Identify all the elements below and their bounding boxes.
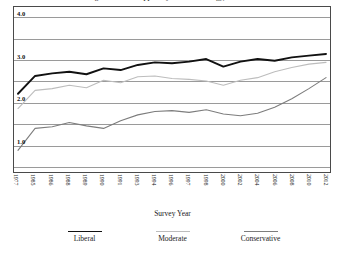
x-axis-tick-label: 1993 (134, 174, 140, 185)
x-axis-tick-label: 1988 (65, 174, 71, 185)
legend-item: Liberal (54, 231, 116, 243)
x-axis-tick-label: 1996 (168, 174, 174, 185)
x-axis-tick-label: 2002 (237, 174, 243, 185)
plot-area (13, 6, 331, 173)
x-axis-tick-label: 1994 (151, 174, 157, 185)
legend-swatch (68, 231, 102, 232)
x-axis-tick-label: 1989 (82, 174, 88, 185)
x-axis-title: Survey Year (0, 209, 345, 218)
x-axis-tick-label: 1991 (117, 174, 123, 185)
x-axis-tick-label: 1998 (203, 174, 209, 185)
series-line-moderate (18, 62, 326, 108)
x-axis-tick-label: 2000 (220, 174, 226, 185)
x-axis-tick-label: 2004 (254, 174, 260, 185)
x-axis-tick-label: 2006 (272, 174, 278, 185)
y-axis-tick-label: 3.0 (17, 53, 25, 60)
x-axis-tick-label: 1997 (185, 174, 191, 185)
x-axis-tick-label: 2008 (289, 174, 295, 185)
chart-title-clipped: Figure 1. Mean Support by Political Ideo… (0, 0, 345, 2)
legend-item: Moderate (142, 231, 204, 243)
x-axis-tick-label: 2010 (306, 174, 312, 185)
legend-item: Conservative (230, 231, 292, 243)
series-line-conservative (18, 78, 326, 151)
series-lines (14, 7, 330, 172)
legend-label: Conservative (241, 234, 281, 243)
x-axis-tick-label: 1990 (99, 174, 105, 185)
legend-swatch (244, 231, 278, 232)
x-axis-tick-label: 1985 (30, 174, 36, 185)
series-line-liberal (18, 54, 326, 94)
y-axis-tick-label: 1.0 (17, 138, 25, 145)
chart-figure: Figure 1. Mean Support by Political Ideo… (0, 0, 345, 257)
y-axis-tick-label: 4.0 (17, 10, 25, 17)
x-axis-tick-label: 1986 (48, 174, 54, 185)
plot-inner (14, 7, 330, 172)
y-axis-tick-label: 2.0 (17, 95, 25, 102)
chart-legend: LiberalModerateConservative (0, 231, 345, 243)
legend-swatch (156, 231, 190, 232)
legend-label: Moderate (158, 234, 187, 243)
x-axis-tick-labels: 1977198519861988198919901991199319941996… (13, 174, 331, 206)
x-axis-tick-label: 2012 (323, 174, 329, 185)
chart-title-text: Figure 1. Mean Support by Political Ideo… (0, 0, 345, 2)
legend-label: Liberal (74, 234, 96, 243)
x-axis-tick-label: 1977 (13, 174, 19, 185)
